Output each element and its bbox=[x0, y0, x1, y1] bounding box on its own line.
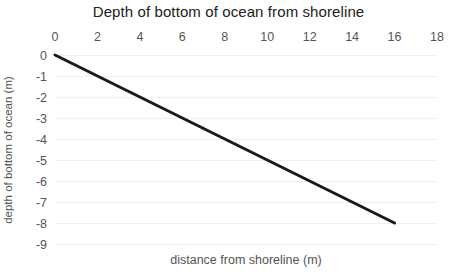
y-tick-label: -2 bbox=[36, 91, 47, 105]
x-tick-label: 8 bbox=[221, 30, 228, 44]
y-axis-title: depth of bottom of ocean (m) bbox=[2, 76, 14, 224]
x-tick-label: 10 bbox=[260, 30, 274, 44]
x-tick-label: 18 bbox=[430, 30, 444, 44]
x-tick-label: 6 bbox=[179, 30, 186, 44]
y-tick-label: -4 bbox=[36, 133, 47, 147]
x-tick-label: 12 bbox=[303, 30, 317, 44]
y-tick-label: -3 bbox=[36, 112, 47, 126]
y-tick-label: 0 bbox=[40, 49, 47, 63]
y-tick-label: -8 bbox=[36, 217, 47, 231]
x-tick-label: 14 bbox=[345, 30, 359, 44]
y-tick-label: -5 bbox=[36, 154, 47, 168]
x-tick-label: 0 bbox=[52, 30, 59, 44]
x-tick-label: 2 bbox=[94, 30, 101, 44]
x-tick-label: 4 bbox=[136, 30, 143, 44]
x-axis-tick-labels: 024681012141618 bbox=[52, 30, 444, 44]
y-axis-tick-labels: 0-1-2-3-4-5-6-7-8-9 bbox=[36, 49, 47, 252]
plot-area: 024681012141618 0-1-2-3-4-5-6-7-8-9 dept… bbox=[0, 0, 457, 275]
chart-container: Depth of bottom of ocean from shoreline … bbox=[0, 0, 457, 275]
y-tick-label: -6 bbox=[36, 175, 47, 189]
y-tick-label: -7 bbox=[36, 196, 47, 210]
y-tick-label: -1 bbox=[36, 70, 47, 84]
x-axis-title: distance from shoreline (m) bbox=[170, 253, 321, 267]
x-tick-label: 16 bbox=[388, 30, 402, 44]
y-tick-label: -9 bbox=[36, 238, 47, 252]
